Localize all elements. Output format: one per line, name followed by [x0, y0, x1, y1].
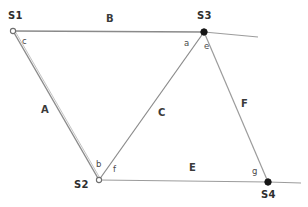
segment-label-a: A: [41, 105, 49, 115]
segment-line-e-extension: [268, 182, 301, 183]
station-label-s4: S4: [261, 190, 276, 200]
station-marker-s4: [265, 179, 271, 185]
angle-label-e: e: [204, 42, 209, 51]
angle-label-b: b: [96, 160, 101, 169]
station-label-s3: S3: [197, 11, 212, 21]
angle-label-c: c: [22, 37, 27, 46]
angle-label-f: f: [113, 165, 116, 174]
station-label-s1: S1: [8, 11, 23, 21]
segment-label-e: E: [189, 163, 196, 173]
segment-line-f: [204, 32, 268, 182]
segment-line-e: [99, 180, 268, 182]
segment-line-b: [13, 31, 204, 32]
diagram-canvas: S1 S2 S3 S4 A B C E F c a e b f g: [0, 0, 308, 207]
station-label-s2: S2: [74, 180, 89, 190]
angle-label-g: g: [252, 167, 257, 176]
segment-line-c: [99, 32, 204, 180]
station-marker-s1: [10, 28, 15, 33]
segment-line-a-shadow: [15, 31, 101, 180]
segment-line-a: [13, 31, 99, 180]
angle-label-a: a: [184, 39, 189, 48]
station-marker-s3: [201, 29, 207, 35]
segment-line-b-extension: [204, 32, 258, 37]
segment-label-f: F: [241, 99, 248, 109]
station-marker-s2: [96, 177, 101, 182]
segment-label-b: B: [106, 14, 114, 24]
segment-label-c: C: [158, 108, 165, 118]
